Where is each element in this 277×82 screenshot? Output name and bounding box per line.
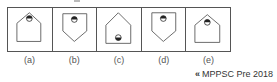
option-label-b: (b) [52,55,97,65]
option-figure-d[interactable] [142,8,187,51]
double-chevron-left-icon: « [195,69,200,79]
option-figure-b[interactable] [53,8,98,51]
answer-figures-row [7,7,231,52]
option-label-a: (a) [7,55,52,65]
house-up-shape-icon [97,8,141,51]
source-text: MPPSC Pre 2018 [202,69,273,79]
option-labels-row: (a) (b) (c) (d) (e) [7,55,231,65]
house-up-shape-icon [186,8,230,51]
option-label-c: (c) [97,55,142,65]
exam-source-citation: «MPPSC Pre 2018 [195,69,273,79]
house-down-shape-icon [142,8,186,51]
house-up-shape-icon [8,8,52,51]
option-figure-e[interactable] [186,8,230,51]
option-label-e: (e) [186,55,231,65]
option-figure-a[interactable] [8,8,53,51]
option-label-d: (d) [141,55,186,65]
cropped-text-remnant [74,0,80,2]
option-figure-c[interactable] [97,8,142,51]
house-down-shape-icon [53,8,97,51]
